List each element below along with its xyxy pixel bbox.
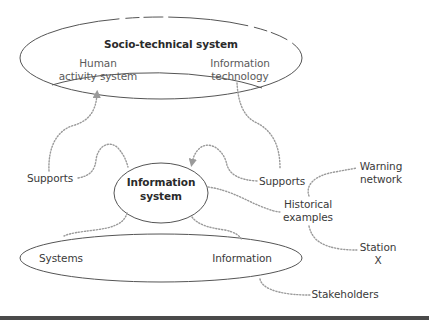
supports-right-label: Supports — [256, 175, 308, 188]
connector-is-to-information — [192, 217, 242, 240]
connector-supports-to-human-activity — [49, 94, 97, 171]
info-tech-label-line1: Information — [205, 57, 275, 70]
information-label: Information — [212, 252, 272, 265]
socio-technical-title: Socio-technical system — [104, 38, 220, 51]
connector-to-stakeholders — [260, 279, 311, 295]
information-system-label-line2: system — [121, 190, 201, 203]
connector-it-to-supports-right — [237, 83, 280, 168]
supports-left-label: Supports — [24, 172, 76, 185]
warning-network-line1: Warning — [356, 160, 406, 173]
connector-historical-to-warning — [308, 168, 357, 196]
bottom-bar — [0, 316, 429, 320]
connector-supports-right-to-is — [192, 145, 257, 181]
station-x-line1: Station — [358, 241, 398, 254]
connector-is-to-systems — [64, 213, 127, 236]
information-system-label-line1: Information — [121, 176, 201, 189]
warning-network-line2: network — [356, 173, 406, 186]
connector-is-to-historical — [208, 187, 281, 212]
connector-supports-left-to-is — [78, 144, 128, 178]
station-x-line2: X — [358, 254, 398, 267]
connector-historical-to-station — [309, 226, 357, 250]
info-tech-label-line2: technology — [205, 70, 275, 83]
historical-examples-line2: examples — [280, 211, 336, 224]
historical-examples-line1: Historical — [280, 198, 336, 211]
human-activity-label-line1: Human — [58, 57, 138, 70]
stakeholders-label: Stakeholders — [310, 288, 380, 301]
systems-label: Systems — [38, 252, 84, 265]
human-activity-label-line2: activity system — [58, 70, 138, 83]
